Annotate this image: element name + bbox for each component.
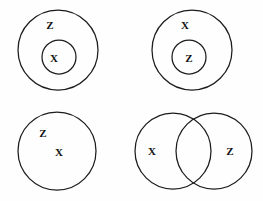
right-circle (176, 113, 252, 189)
label-z-outer: Z (46, 20, 54, 31)
label-z: Z (39, 128, 47, 139)
panel-bottom-left: Z X (0, 100, 131, 201)
outer-circle (18, 10, 98, 90)
label-z-right: Z (226, 146, 234, 157)
panel-bottom-left-canvas (0, 100, 131, 201)
label-x-inner: X (50, 53, 58, 64)
venn-diagram-figure: Z X X Z Z X X Z (0, 0, 263, 201)
outer-circle (152, 10, 232, 90)
label-x: X (55, 147, 63, 158)
panel-top-right: X Z (131, 0, 263, 100)
label-x-outer: X (181, 20, 189, 31)
panel-top-right-canvas (131, 0, 263, 100)
inner-circle (42, 40, 76, 74)
left-circle (135, 113, 211, 189)
panel-top-left-canvas (0, 0, 131, 100)
label-x-left: X (148, 146, 156, 157)
label-z-inner: Z (185, 53, 193, 64)
panel-top-left: Z X (0, 0, 131, 100)
panel-bottom-right: X Z (131, 100, 263, 201)
